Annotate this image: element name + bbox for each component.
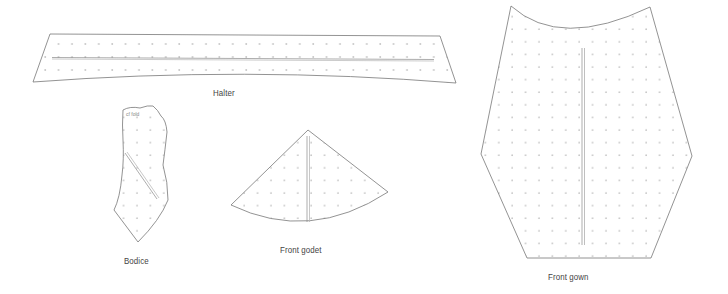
bodice-annotation: cf fold [126, 111, 140, 117]
halter-piece [33, 34, 456, 83]
pattern-layout: cf fold [0, 0, 728, 294]
front-godet-label: Front godet [280, 245, 321, 255]
halter-label: Halter [213, 88, 235, 98]
front-gown-label: Front gown [548, 272, 589, 282]
front-gown-piece [481, 6, 692, 258]
front-godet-piece [231, 130, 388, 222]
bodice-label: Bodice [124, 256, 149, 266]
bodice-piece: cf fold [114, 106, 168, 242]
